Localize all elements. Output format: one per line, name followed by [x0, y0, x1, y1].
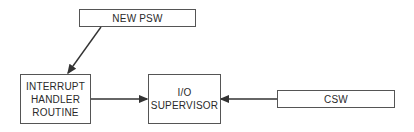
new-psw-box: NEW PSW — [79, 9, 196, 27]
io-supervisor-label-line-2: SUPERVISOR — [151, 99, 218, 112]
io-supervisor-label-line-1: I/O — [178, 86, 192, 99]
interrupt-handler-label-line-1: INTERRUPT — [26, 80, 85, 93]
edge-new-psw-to-interrupt-handler — [68, 27, 101, 73]
interrupt-handler-label-line-2: HANDLER — [31, 93, 80, 106]
csw-box: CSW — [277, 90, 395, 108]
new-psw-label: NEW PSW — [112, 12, 162, 25]
interrupt-handler-label-line-3: ROUTINE — [32, 106, 78, 119]
io-supervisor-box: I/O SUPERVISOR — [148, 74, 221, 124]
interrupt-handler-box: INTERRUPT HANDLER ROUTINE — [20, 74, 91, 124]
csw-label: CSW — [324, 93, 348, 106]
